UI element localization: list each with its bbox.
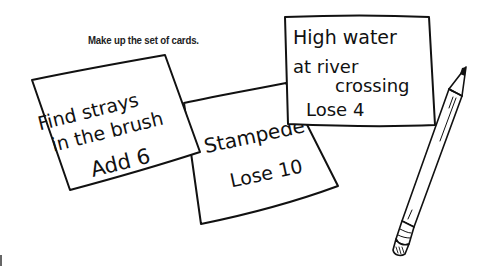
- card-high-water-effect: Lose 4: [306, 99, 364, 120]
- card-high-water-line1: High water: [293, 26, 397, 48]
- card-illustration: Stampede Lose 10 Find strays in the brus…: [0, 0, 491, 266]
- card-find-strays: Find strays in the brush Add 6: [32, 55, 200, 192]
- card-high-water: High water at river crossing Lose 4: [285, 16, 435, 127]
- card-high-water-line2: at river: [293, 56, 359, 77]
- worksheet-page: Make up the set of cards. Stampede Lose …: [0, 0, 491, 266]
- card-high-water-line3: crossing: [335, 75, 410, 96]
- edge-mark: [0, 255, 2, 266]
